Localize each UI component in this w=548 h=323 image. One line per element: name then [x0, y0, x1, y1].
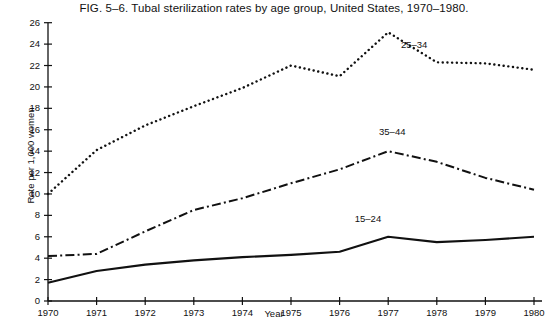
y-tick-label: 16 — [18, 124, 40, 135]
y-tick-label: 6 — [18, 231, 40, 242]
y-tick-label: 18 — [18, 102, 40, 113]
series-label-15-24: 15–24 — [355, 213, 381, 224]
x-tick-label: 1973 — [174, 307, 214, 318]
y-tick-label: 26 — [18, 17, 40, 28]
x-tick-label: 1974 — [222, 307, 262, 318]
x-tick-label: 1977 — [368, 307, 408, 318]
x-tick-label: 1978 — [417, 307, 457, 318]
series-label-35-44: 35–44 — [379, 126, 405, 137]
x-tick-label: 1975 — [271, 307, 311, 318]
x-tick-label: 1971 — [77, 307, 117, 318]
x-tick-label: 1970 — [28, 307, 68, 318]
series-label-25-34: 25–34 — [401, 39, 427, 50]
chart-svg — [0, 0, 548, 323]
y-tick-label: 24 — [18, 38, 40, 49]
y-tick-label: 10 — [18, 188, 40, 199]
chart-plot-area — [0, 0, 548, 323]
series-line-25-34 — [48, 32, 534, 194]
x-tick-label: 1972 — [125, 307, 165, 318]
x-tick-label: 1976 — [320, 307, 360, 318]
y-tick-label: 0 — [18, 295, 40, 306]
y-tick-label: 4 — [18, 252, 40, 263]
y-tick-label: 12 — [18, 167, 40, 178]
y-tick-label: 2 — [18, 274, 40, 285]
y-tick-label: 20 — [18, 81, 40, 92]
y-tick-label: 8 — [18, 209, 40, 220]
figure-container: FIG. 5–6. Tubal sterilization rates by a… — [0, 0, 548, 323]
x-tick-label: 1979 — [465, 307, 505, 318]
y-tick-label: 14 — [18, 145, 40, 156]
y-tick-label: 22 — [18, 60, 40, 71]
x-tick-label: 1980 — [514, 307, 548, 318]
chart-axes — [48, 23, 542, 301]
